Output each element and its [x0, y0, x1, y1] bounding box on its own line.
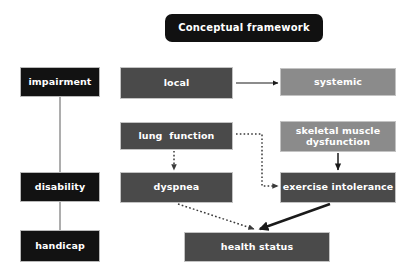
- node-title-banner: Conceptual framework: [165, 14, 323, 42]
- node-systemic[interactable]: systemic: [280, 68, 396, 96]
- node-disability[interactable]: disability: [20, 172, 100, 202]
- diagram-canvas: Conceptual framework impairment disabili…: [0, 0, 414, 279]
- node-handicap[interactable]: handicap: [20, 230, 100, 262]
- edge-lung-function-to-exercise: [236, 134, 278, 186]
- edge-dyspnea-to-health-status: [178, 204, 254, 229]
- node-local[interactable]: local: [120, 67, 233, 99]
- node-exercise-intolerance[interactable]: exercise intolerance: [280, 172, 396, 203]
- node-skeletal-muscle-dysfunction[interactable]: skeletal muscle dysfunction: [280, 121, 396, 152]
- node-impairment[interactable]: impairment: [20, 67, 100, 97]
- edge-exercise-to-health-status: [260, 204, 330, 229]
- node-health-status[interactable]: health status: [184, 232, 330, 262]
- node-lung-function[interactable]: lung function: [120, 122, 233, 150]
- node-dyspnea[interactable]: dyspnea: [120, 172, 233, 203]
